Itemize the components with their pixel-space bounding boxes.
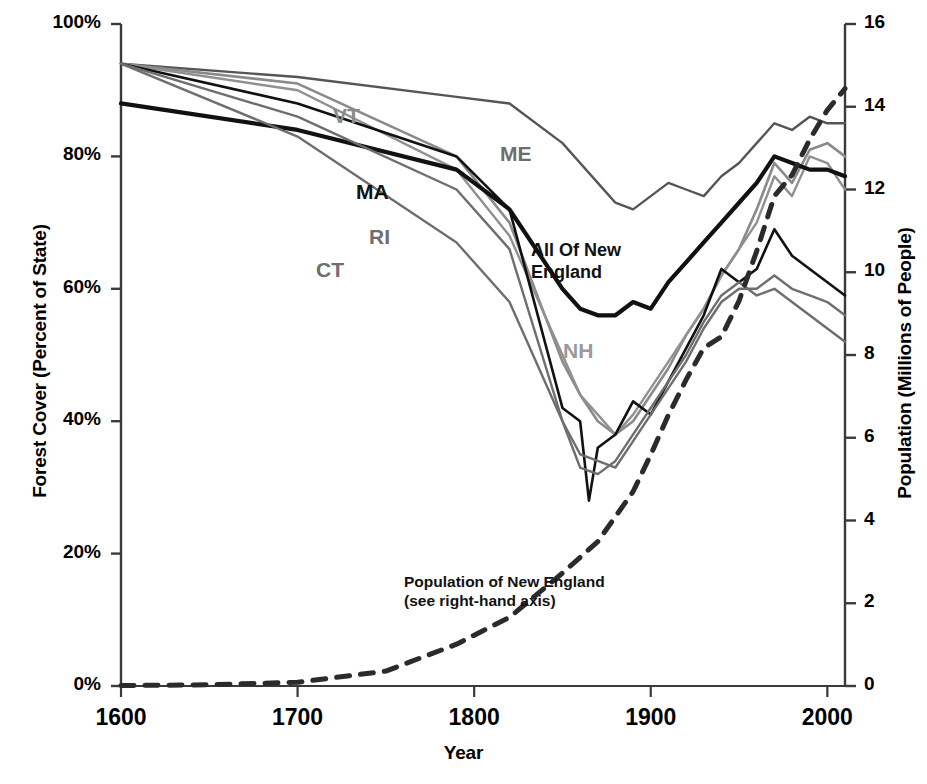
- series-label-all-new-england: All Of New England: [531, 240, 621, 284]
- population-annotation: Population of New England (see right-han…: [404, 573, 605, 611]
- plot-area: [0, 0, 927, 784]
- series-line-ma: [121, 64, 845, 501]
- population-annotation-line-2: (see right-hand axis): [404, 592, 605, 611]
- all-ne-line-2: England: [531, 262, 621, 284]
- series-label-ri: RI: [369, 225, 390, 249]
- forest-cover-chart: Forest Cover (Percent of State) Populati…: [0, 0, 927, 784]
- all-ne-line-1: All Of New: [531, 240, 621, 262]
- population-annotation-line-1: Population of New England: [404, 573, 605, 592]
- series-line-ct: [121, 64, 845, 474]
- series-label-vt: VT: [333, 104, 360, 128]
- series-label-nh: NH: [563, 339, 593, 363]
- series-line-ri: [121, 64, 845, 468]
- series-label-ct: CT: [316, 258, 344, 282]
- series-label-ma: MA: [356, 180, 389, 204]
- series-label-me: ME: [500, 142, 532, 166]
